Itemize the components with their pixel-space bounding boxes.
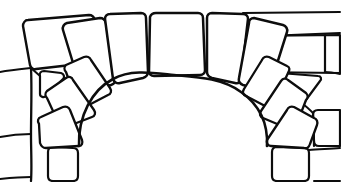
stone-arch-illustration (0, 0, 341, 182)
arch-drawing-canvas (0, 0, 341, 182)
voussoir-keystone (149, 13, 205, 76)
wall-stone-left-bottom-square (48, 147, 78, 181)
wall-stone-right-top-course (243, 12, 340, 13)
wall-stone-right-bottom (272, 147, 309, 181)
